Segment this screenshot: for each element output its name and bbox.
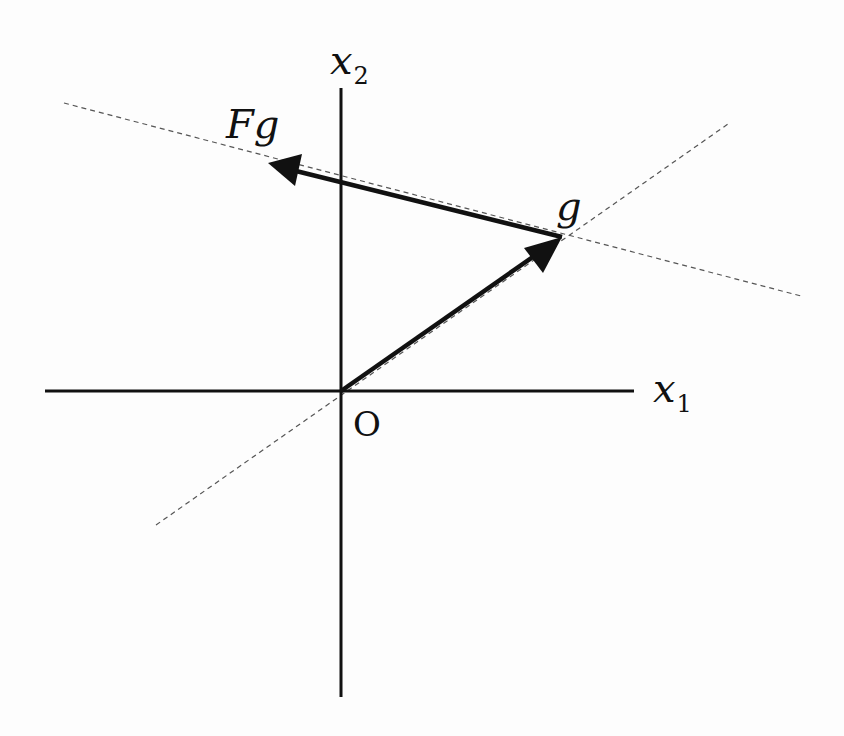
x1-label-subscript: 1 [677,390,692,418]
vector-fg-label: Fg [226,104,279,144]
origin-label: O [353,407,381,441]
vector-fg-shaft [292,170,562,237]
x1-label-main: x [653,365,676,411]
x2-label-subscript: 2 [354,62,369,90]
vector-g-arrowhead [524,237,562,273]
x2-label-main: x [330,37,353,83]
vector-fg-arrowhead [268,154,302,186]
dashed-line-through-origin-and-g [156,124,728,525]
x2-axis-label: x2 [330,40,369,80]
dashed-line-through-g-and-fg [64,103,801,296]
x1-axis-label: x1 [653,368,692,408]
diagram-svg [0,0,844,736]
diagram-canvas: x2 x1 O Fg g [0,0,844,736]
vector-g-label: g [556,186,582,226]
vector-g-shaft [341,252,540,391]
